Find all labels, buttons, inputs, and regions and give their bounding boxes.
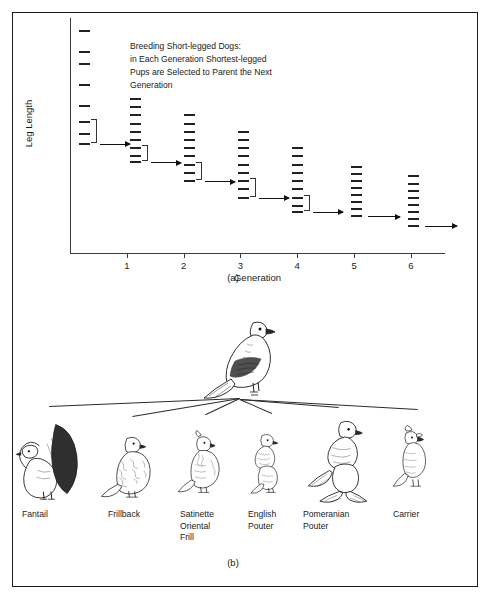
breed-illustration-5 [388,415,448,505]
breed-label-line: Frillback [108,509,140,521]
individual-dash [292,147,303,149]
individual-dash [351,215,362,217]
breed-label-line: Pouter [303,521,349,533]
individual-dash [79,51,90,53]
panel-b-pigeon-breeds: Fantail Frillback [0,295,466,575]
breed-label-line: Fantail [22,509,48,521]
x-tick-label-2: 2 [174,260,194,271]
individual-dash [79,121,90,123]
individual-dash [130,98,141,100]
individual-dash [130,123,141,125]
x-tick-label-5: 5 [344,260,364,271]
x-tick-label-4: 4 [287,260,307,271]
y-axis-line [70,18,71,253]
breed-label-2: SatinetteOrientalFrill [180,509,214,544]
x-tick-1 [127,253,128,258]
breed-label-0: Fantail [22,509,48,521]
selection-arrow [368,216,400,217]
individual-dash [184,147,195,149]
individual-dash [238,197,249,199]
x-tick-2 [184,253,185,258]
individual-dash [351,194,362,196]
individual-dash [351,180,362,182]
individual-dash [130,155,141,157]
individual-dash [130,139,141,141]
individual-dash [408,183,419,185]
individual-dash [292,211,303,213]
individual-dash [292,180,303,182]
individual-dash [238,164,249,166]
selection-bracket [304,195,310,211]
individual-dash [130,161,141,163]
breed-label-line: Satinette [180,509,214,521]
y-axis-label: Leg Length [23,79,34,169]
individual-dash [408,204,419,206]
breed-label-line: Carrier [393,509,419,521]
individual-dash [79,133,90,135]
caption-line-0: Breeding Short-legged Dogs: [130,40,360,53]
selection-bracket [250,178,256,196]
rock-pigeon-ancestor-icon [195,313,285,408]
panel-a-selection-chart: Leg Length Generation 123456 Breeding Sh… [0,0,466,288]
caption-line-1: in Each Generation Shortest-legged [130,53,360,66]
individual-dash [130,106,141,108]
selection-arrow [425,226,457,227]
breed-label-3: EnglishPouter [248,509,276,532]
selection-bracket [91,119,97,142]
individual-dash [130,147,141,149]
individual-dash [292,155,303,157]
individual-dash [184,172,195,174]
selection-bracket [196,162,202,180]
individual-dash [408,211,419,213]
individual-dash [351,201,362,203]
selection-arrow [100,144,130,145]
individual-dash [238,180,249,182]
individual-dash [184,155,195,157]
x-tick-5 [354,253,355,258]
individual-dash [238,172,249,174]
individual-dash [292,188,303,190]
x-tick-label-6: 6 [401,260,421,271]
breed-label-line: English [248,509,276,521]
figure-root: Leg Length Generation 123456 Breeding Sh… [0,0,491,600]
individual-dash [130,114,141,116]
breed-label-line: Oriental [180,521,214,533]
individual-dash [79,30,90,32]
breed-illustration-4 [300,413,378,505]
individual-dash [238,188,249,190]
individual-dash [408,197,419,199]
breed-illustration-2 [175,421,237,505]
individual-dash [292,164,303,166]
chart-caption: Breeding Short-legged Dogs:in Each Gener… [130,40,360,92]
individual-dash [184,139,195,141]
individual-dash [408,190,419,192]
selection-arrow [205,181,235,182]
individual-dash [130,131,141,133]
individual-dash [238,155,249,157]
individual-dash [184,131,195,133]
x-tick-6 [411,253,412,258]
individual-dash [351,173,362,175]
breed-label-line: Pouter [248,521,276,533]
individual-dash [292,172,303,174]
selection-arrow [313,212,343,213]
breed-label-5: Carrier [393,509,419,521]
x-tick-label-1: 1 [117,260,137,271]
individual-dash [238,131,249,133]
individual-dash [238,147,249,149]
individual-dash [408,225,419,227]
individual-dash [351,208,362,210]
individual-dash [238,139,249,141]
individual-dash [184,164,195,166]
breed-label-4: PomeranianPouter [303,509,349,532]
breed-illustration-3 [243,419,301,505]
panel-b-letter: (b) [0,557,466,568]
selection-arrow [259,198,289,199]
individual-dash [408,175,419,177]
breed-illustration-1 [98,423,166,505]
breed-label-line: Pomeranian [303,509,349,521]
breed-illustration-0 [8,413,90,505]
individual-dash [184,123,195,125]
panel-a-letter: (a) [0,272,466,283]
individual-dash [292,205,303,207]
